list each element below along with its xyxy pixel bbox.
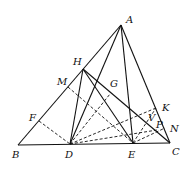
segment-HE	[83, 69, 133, 143]
solid-lines	[18, 25, 170, 145]
segment-HD	[70, 69, 83, 144]
label-K: K	[161, 102, 170, 113]
label-M: M	[56, 76, 68, 87]
label-H: H	[72, 56, 82, 67]
segment-FD	[39, 121, 70, 144]
label-P: P	[155, 119, 163, 130]
segment-AE	[121, 25, 133, 143]
segment-DG	[70, 94, 110, 144]
label-G: G	[110, 78, 118, 89]
label-F: F	[28, 112, 37, 123]
segment-BC	[18, 143, 170, 145]
segment-DP	[70, 130, 157, 144]
segment-EN	[133, 128, 165, 143]
label-D: D	[64, 149, 73, 160]
label-B: B	[11, 149, 19, 160]
label-E: E	[127, 149, 136, 160]
label-A: A	[125, 14, 133, 25]
label-C: C	[172, 146, 180, 157]
geometry-diagram: AHMGFBDECKVPN	[0, 0, 190, 172]
segment-BA	[18, 25, 121, 145]
dashed-lines	[39, 87, 165, 144]
label-N: N	[169, 123, 180, 134]
